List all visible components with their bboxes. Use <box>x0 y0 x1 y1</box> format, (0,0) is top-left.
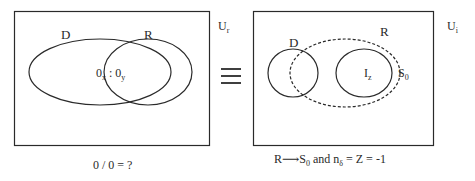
right-boundary-label: S0 <box>398 66 409 82</box>
right-set-r-label: R <box>380 24 389 39</box>
left-universe-label: Ur <box>218 19 230 35</box>
left-caption: 0 / 0 = ? <box>93 158 132 172</box>
diagram-canvas: D R Ur 0x : 0y 0 / 0 = ? D R Iz S0 Ui <box>0 0 475 181</box>
right-set-d-label: D <box>289 35 298 50</box>
right-universe-label: Ui <box>447 19 459 35</box>
right-set-d-circle <box>268 49 318 97</box>
equivalence-symbol <box>221 69 241 83</box>
right-set-r-dashed-ellipse <box>290 39 400 107</box>
right-caption: R⟶S0 and nδ = Z = -1 <box>274 152 386 168</box>
left-intersection-label: 0x : 0y <box>96 66 125 82</box>
left-set-d-label: D <box>61 27 70 42</box>
left-panel: D R Ur 0x : 0y 0 / 0 = ? <box>15 12 230 173</box>
right-inner-set-label: Iz <box>364 66 372 82</box>
right-panel: D R Iz S0 Ui R⟶S0 and nδ = Z = -1 <box>254 12 459 169</box>
left-set-r-label: R <box>144 27 153 42</box>
